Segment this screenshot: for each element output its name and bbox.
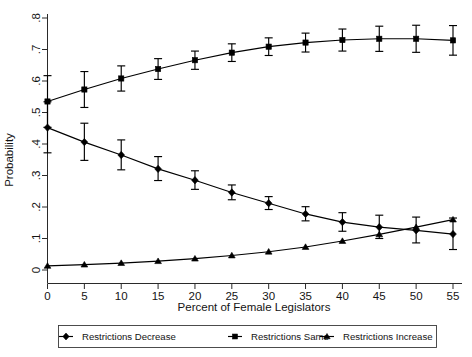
x-tick-label: 45 [373,290,386,302]
legend-label: Restrictions Same [251,331,329,342]
data-point-square [303,40,308,45]
x-tick-label: 10 [115,290,128,302]
x-tick-label: 50 [410,290,423,302]
y-tick-label: .6 [30,76,42,86]
data-point-square [414,36,419,41]
y-tick-label: .3 [30,171,42,181]
x-tick-label: 5 [81,290,87,302]
data-point-square [377,36,382,41]
legend-label: Restrictions Increase [343,331,433,342]
data-point-square [450,38,455,43]
x-tick-label: 15 [152,290,165,302]
y-tick-label: .2 [30,202,42,212]
x-tick-label: 40 [336,290,349,302]
y-tick-label: .4 [30,139,42,149]
x-tick-label: 55 [447,290,460,302]
y-tick-label: .1 [30,234,42,244]
x-axis-title: Percent of Female Legislators [178,301,331,313]
data-point-square [45,99,50,104]
data-point-square [266,44,271,49]
legend-label: Restrictions Decrease [82,331,176,342]
probability-chart: Probability 0.1.2.3.4.5.6.7.8 0510152025… [0,0,472,357]
x-tick-label: 0 [44,290,50,302]
data-point-square [233,334,238,339]
y-axis-title: Probability [3,133,15,187]
y-tick-label: .8 [30,13,42,23]
y-tick-label: 0 [30,267,42,273]
y-tick-label: .7 [30,45,42,55]
data-point-square [119,76,124,81]
y-tick-label: .5 [30,108,42,118]
data-point-square [192,58,197,63]
data-point-square [82,87,87,92]
data-point-square [340,37,345,42]
data-point-square [155,66,160,71]
data-point-square [229,50,234,55]
